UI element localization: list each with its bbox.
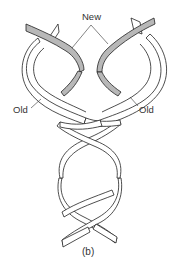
leader-old-right <box>130 97 138 106</box>
dna-replication-figure: New Old Old (b) <box>0 0 180 268</box>
daughter-helix-right <box>97 18 167 126</box>
new-strand-left-lower <box>61 71 82 96</box>
old-strand-tail-right <box>93 224 117 243</box>
label-old-left: Old <box>13 104 28 115</box>
label-new-group: New <box>72 11 108 48</box>
leader-old-left <box>31 99 41 108</box>
label-old-right: Old <box>139 104 154 115</box>
leader-new-left <box>72 25 91 48</box>
new-strand-right-lower <box>97 72 121 96</box>
figure-caption: (b) <box>82 246 94 257</box>
label-new: New <box>82 11 101 22</box>
leader-new-right <box>91 25 108 44</box>
daughter-helix-left <box>22 24 86 124</box>
parental-helix <box>57 120 122 247</box>
label-old-left-group: Old <box>13 99 41 115</box>
new-strand-right-top <box>97 18 155 72</box>
